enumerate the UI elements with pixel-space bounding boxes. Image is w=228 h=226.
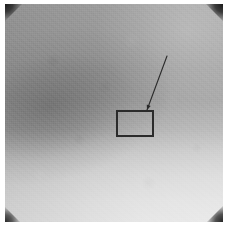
bright-upper-right-lobe [92, 4, 223, 104]
micrograph-image [5, 4, 223, 222]
figure-root [0, 0, 228, 226]
bright-lower-region [5, 130, 223, 222]
